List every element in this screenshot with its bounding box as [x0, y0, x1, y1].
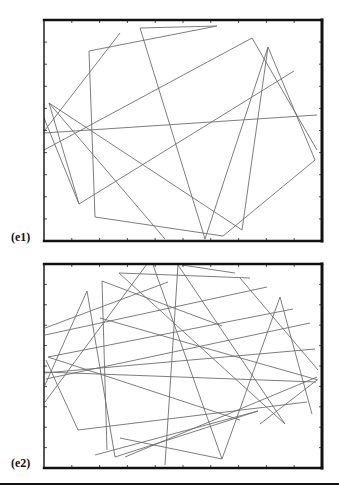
panel-label-e2: (e2) — [11, 456, 30, 471]
panel-e2 — [44, 260, 322, 468]
panel-label-e1: (e1) — [11, 230, 30, 245]
panel-e1 — [44, 20, 322, 241]
trajectory-e1 — [44, 26, 317, 239]
bottom-divider — [0, 483, 339, 485]
figure-canvas — [0, 0, 339, 491]
trajectory-e2 — [44, 260, 318, 465]
